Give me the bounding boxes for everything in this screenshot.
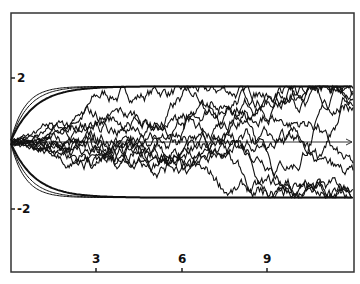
x-tick-label-9: 9 [263, 252, 271, 266]
x-tick-label-3: 3 [92, 252, 100, 266]
x-tick-label-6: 6 [178, 252, 186, 266]
y-tick-label-2: 2 [17, 71, 25, 85]
y-tick-label-neg2: -2 [17, 202, 30, 216]
chart: 2 -2 3 6 9 [0, 0, 360, 284]
